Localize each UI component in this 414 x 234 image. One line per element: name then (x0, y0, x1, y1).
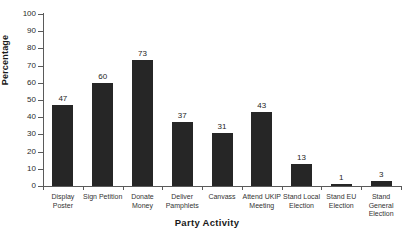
x-axis-tick (123, 186, 124, 190)
y-axis-tick-label: 70 (0, 62, 36, 70)
x-axis-line (43, 186, 401, 187)
x-axis-category-label-line: Election (321, 202, 361, 211)
x-axis-category-label-line: Pamphlets (162, 202, 202, 211)
y-axis-tick (38, 169, 43, 170)
y-axis-tick-label-text: 70 (2, 62, 36, 70)
x-axis-category-label: DisplayPoster (43, 193, 83, 210)
bar-value-label: 43 (242, 101, 282, 110)
bar (52, 105, 73, 186)
bar-value-label: 60 (83, 72, 123, 81)
x-axis-category-label-line: Stand EU (321, 193, 361, 202)
x-axis-tick (162, 186, 163, 190)
x-axis-category-label: Stand EUElection (321, 193, 361, 210)
y-axis-tick-label: 90 (0, 27, 36, 35)
y-axis-tick (38, 134, 43, 135)
y-axis-tick-label-text: 90 (2, 27, 36, 35)
x-axis-tick (401, 186, 402, 190)
y-axis-tick (38, 152, 43, 153)
bar-value-label: 73 (122, 49, 162, 58)
x-axis-category-label-line: Canvass (202, 193, 242, 202)
bar (371, 181, 392, 186)
bar-value-label: 1 (321, 173, 361, 182)
y-axis-tick-label: 0 (0, 182, 36, 190)
y-axis-tick-label: 30 (0, 130, 36, 138)
x-axis-tick (242, 186, 243, 190)
y-axis-tick (38, 14, 43, 15)
y-axis-tick (38, 83, 43, 84)
bar (172, 122, 193, 186)
y-axis-tick-label-text: 10 (2, 165, 36, 173)
bar (212, 133, 233, 186)
bar (132, 60, 153, 186)
x-axis-category-label: DeliverPamphlets (162, 193, 202, 210)
x-axis-category-label: StandGeneralElection (361, 193, 401, 219)
bar (331, 184, 352, 186)
bar (291, 164, 312, 186)
x-axis-category-label-line: Attend UKIP (242, 193, 282, 202)
bar (251, 112, 272, 186)
bar (92, 83, 113, 186)
y-axis-tick-label: 60 (0, 79, 36, 87)
x-axis-category-label: Attend UKIPMeeting (242, 193, 282, 210)
x-axis-tick (43, 186, 44, 190)
y-axis-tick-label: 20 (0, 148, 36, 156)
x-axis-category-label-line: Meeting (242, 202, 282, 211)
y-axis-tick-label: 10 (0, 165, 36, 173)
bar-value-label: 37 (162, 111, 202, 120)
y-axis-tick-label-text: 0 (2, 182, 36, 190)
x-axis-tick (282, 186, 283, 190)
x-axis-category-label: DonateMoney (123, 193, 163, 210)
x-axis-category-label-line: Poster (43, 202, 83, 211)
y-axis-tick (38, 117, 43, 118)
y-axis-tick-label: 50 (0, 96, 36, 104)
x-axis-category-label-line: Sign Petition (83, 193, 123, 202)
x-axis-category-label-line: Display (43, 193, 83, 202)
y-axis-tick-label: 40 (0, 113, 36, 121)
y-axis-tick (38, 66, 43, 67)
x-axis-category-label-line: Stand (361, 193, 401, 202)
y-axis-tick-label-text: 40 (2, 113, 36, 121)
x-axis-title: Party Activity (0, 217, 414, 228)
x-axis-tick (202, 186, 203, 190)
x-axis-category-label-line: Election (282, 202, 322, 211)
x-axis-tick (83, 186, 84, 190)
y-axis-tick-label-text: 80 (2, 44, 36, 52)
bar-chart: Percentage 1009080706050403020100 476073… (0, 0, 414, 234)
y-axis-tick-label-text: 60 (2, 79, 36, 87)
y-axis-tick-label-text: 30 (2, 130, 36, 138)
bar-value-label: 47 (43, 94, 83, 103)
bar-value-label: 13 (282, 153, 322, 162)
x-axis-category-label-line: General (361, 202, 401, 211)
y-axis-tick (38, 48, 43, 49)
x-axis-tick (361, 186, 362, 190)
y-axis-tick-label-text: 50 (2, 96, 36, 104)
x-axis-tick (321, 186, 322, 190)
x-axis-category-label: Stand LocalElection (282, 193, 322, 210)
bar-value-label: 31 (202, 122, 242, 131)
x-axis-category-label: Canvass (202, 193, 242, 202)
y-axis-tick-label-text: 20 (2, 148, 36, 156)
x-axis-category-label-line: Deliver (162, 193, 202, 202)
y-axis-tick-label: 80 (0, 44, 36, 52)
y-axis-tick (38, 31, 43, 32)
x-axis-category-label-line: Money (123, 202, 163, 211)
x-axis-category-label-line: Stand Local (282, 193, 322, 202)
y-axis-tick-label: 100 (0, 10, 36, 18)
x-axis-category-label-line: Donate (123, 193, 163, 202)
x-axis-category-label: Sign Petition (83, 193, 123, 202)
y-axis-tick-label-text: 100 (2, 10, 36, 18)
bar-value-label: 3 (361, 170, 401, 179)
